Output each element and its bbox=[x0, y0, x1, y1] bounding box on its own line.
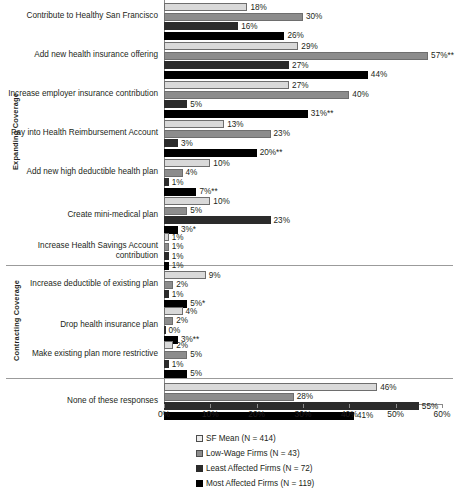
bar-value-label: 40% bbox=[352, 91, 368, 99]
bar bbox=[164, 233, 169, 241]
category-label: Drop health insurance plan bbox=[8, 320, 158, 330]
bar bbox=[164, 61, 289, 69]
bar-value-label: 0% bbox=[169, 327, 181, 335]
bar-value-label: 5% bbox=[190, 370, 202, 378]
bar bbox=[164, 252, 169, 260]
x-axis-tick bbox=[257, 404, 258, 408]
legend-swatch-icon bbox=[196, 450, 203, 457]
legend-item[interactable]: Least Affected Firms (N = 72) bbox=[196, 462, 314, 475]
category-label: Make existing plan more restrictive bbox=[8, 349, 158, 359]
bar bbox=[164, 130, 271, 138]
bar-chart: Expanding Coverage Contracting Coverage … bbox=[0, 0, 459, 489]
bar-value-label: 46% bbox=[380, 384, 396, 392]
x-axis-tick bbox=[349, 404, 350, 408]
bar-value-label: 5% bbox=[190, 207, 202, 215]
legend-item[interactable]: SF Mean (N = 414) bbox=[196, 432, 314, 445]
bar bbox=[164, 317, 173, 325]
bar bbox=[164, 3, 247, 11]
legend-label: Most Affected Firms (N = 119) bbox=[206, 479, 314, 488]
bar bbox=[164, 71, 368, 79]
bar-value-label: 1% bbox=[172, 179, 184, 187]
bar bbox=[164, 110, 308, 118]
bar-value-label: 18% bbox=[250, 4, 266, 12]
bar bbox=[164, 81, 289, 89]
bar bbox=[164, 169, 183, 177]
legend-swatch-icon bbox=[196, 480, 203, 487]
bar bbox=[164, 149, 257, 157]
bar-value-label: 44% bbox=[371, 71, 387, 79]
bar bbox=[164, 197, 210, 205]
legend-swatch-icon bbox=[196, 465, 203, 472]
x-axis-tick-label: 60% bbox=[434, 409, 451, 419]
bar-value-label: 31%** bbox=[311, 110, 334, 118]
bar bbox=[164, 290, 169, 298]
bar-value-label: 2% bbox=[176, 342, 188, 350]
x-axis-tick bbox=[303, 404, 304, 408]
bar bbox=[164, 100, 187, 108]
bar bbox=[164, 351, 187, 359]
legend-label: Low-Wage Firms (N = 43) bbox=[206, 449, 300, 458]
bar-value-label: 41% bbox=[357, 412, 373, 420]
bar bbox=[164, 13, 303, 21]
bar-value-label: 1% bbox=[172, 262, 184, 270]
bar bbox=[164, 178, 169, 186]
bar-value-label: 10% bbox=[213, 160, 229, 168]
bar bbox=[164, 139, 178, 147]
bar bbox=[164, 159, 210, 167]
bar-value-label: 30% bbox=[306, 13, 322, 21]
bar-value-label: 20%** bbox=[260, 149, 283, 157]
x-axis-tick bbox=[164, 404, 165, 408]
legend-item[interactable]: Most Affected Firms (N = 119) bbox=[196, 477, 314, 489]
bar bbox=[164, 393, 294, 401]
x-axis-tick-label: 10% bbox=[202, 409, 219, 419]
x-axis-tick-label: 20% bbox=[248, 409, 265, 419]
bar bbox=[164, 326, 166, 334]
bar bbox=[164, 271, 206, 279]
bar bbox=[164, 91, 349, 99]
x-axis-tick-label: 0% bbox=[158, 409, 170, 419]
bar-value-label: 10% bbox=[213, 198, 229, 206]
bar-value-label: 1% bbox=[172, 234, 184, 242]
category-label: Add new high deductible health plan bbox=[8, 167, 158, 177]
bar-value-label: 2% bbox=[176, 281, 188, 289]
bar-value-label: 23% bbox=[274, 217, 290, 225]
bar bbox=[164, 22, 238, 30]
bar bbox=[164, 307, 183, 315]
category-label: Contribute to Healthy San Francisco bbox=[8, 11, 158, 21]
bar bbox=[164, 370, 187, 378]
bar bbox=[164, 120, 224, 128]
bar-value-label: 2% bbox=[176, 317, 188, 325]
bar bbox=[164, 243, 169, 251]
bar-value-label: 1% bbox=[172, 291, 184, 299]
bar bbox=[164, 360, 169, 368]
bar bbox=[164, 281, 173, 289]
bar bbox=[164, 207, 187, 215]
bar-value-label: 5% bbox=[190, 101, 202, 109]
bar-value-label: 29% bbox=[301, 43, 317, 51]
category-label: Increase deductible of existing plan bbox=[8, 279, 158, 289]
bar bbox=[164, 216, 271, 224]
x-axis-tick-label: 30% bbox=[295, 409, 312, 419]
x-axis-tick bbox=[396, 404, 397, 408]
bar-value-label: 27% bbox=[292, 82, 308, 90]
bar bbox=[164, 42, 298, 50]
bar bbox=[164, 32, 284, 40]
bar-value-label: 1% bbox=[172, 361, 184, 369]
legend-item[interactable]: Low-Wage Firms (N = 43) bbox=[196, 447, 314, 460]
bar bbox=[164, 341, 173, 349]
category-label: Pay into Health Reimbursement Account bbox=[8, 128, 158, 138]
bar-value-label: 7%** bbox=[199, 188, 217, 196]
bar bbox=[164, 52, 428, 60]
category-label: Create mini-medical plan bbox=[8, 210, 158, 220]
bar-value-label: 4% bbox=[186, 169, 198, 177]
legend-swatch-icon bbox=[196, 435, 203, 442]
bar-value-label: 4% bbox=[186, 308, 198, 316]
bar-value-label: 28% bbox=[297, 393, 313, 401]
bar-value-label: 9% bbox=[209, 272, 221, 280]
x-axis-tick bbox=[442, 404, 443, 408]
plot-area: 18%30%16%26%29%57%**27%44%27%40%5%31%**1… bbox=[164, 0, 442, 404]
bar-value-label: 16% bbox=[241, 23, 257, 31]
bar bbox=[164, 383, 377, 391]
category-label: Increase Health Savings Account contribu… bbox=[8, 241, 158, 261]
category-label: Add new health insurance offering bbox=[8, 50, 158, 60]
